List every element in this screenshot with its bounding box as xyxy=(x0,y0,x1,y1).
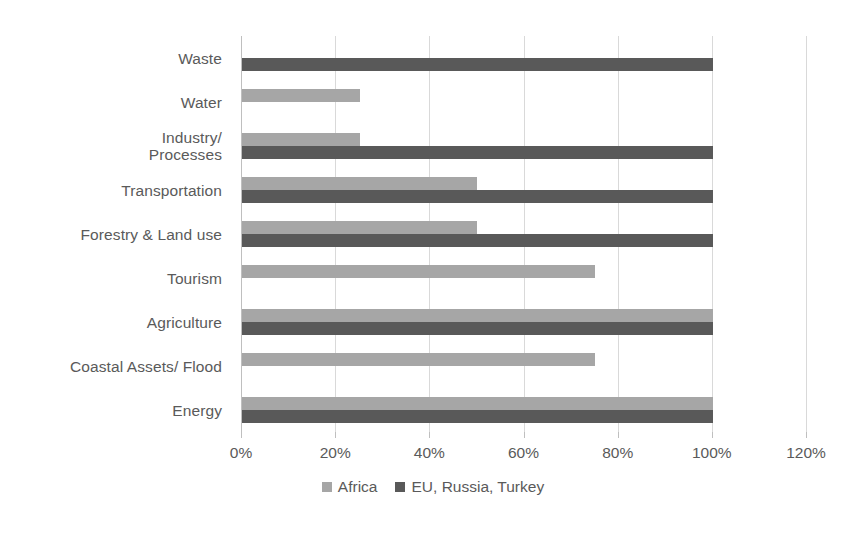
bar xyxy=(242,58,713,71)
x-axis-tick-label: 100% xyxy=(692,444,732,462)
bar xyxy=(242,177,477,190)
axis-tick xyxy=(618,432,619,438)
axis-tick xyxy=(806,432,807,438)
bar xyxy=(242,234,713,247)
bar xyxy=(242,133,360,146)
legend-swatch-icon xyxy=(322,482,332,492)
axis-tick xyxy=(241,432,242,438)
bar xyxy=(242,146,713,159)
category-label: Energy xyxy=(0,402,222,419)
legend-label: Africa xyxy=(338,478,378,496)
legend-label: EU, Russia, Turkey xyxy=(411,478,544,496)
x-axis-tick-label: 80% xyxy=(602,444,633,462)
axis-tick xyxy=(429,432,430,438)
category-label: Waste xyxy=(0,50,222,67)
x-axis-tick-label: 40% xyxy=(414,444,445,462)
bar-chart: WasteWaterIndustry/ ProcessesTransportat… xyxy=(0,0,866,534)
bar xyxy=(242,353,595,366)
category-axis-labels: WasteWaterIndustry/ ProcessesTransportat… xyxy=(0,36,232,432)
category-label: Agriculture xyxy=(0,314,222,331)
bar xyxy=(242,410,713,423)
category-label: Water xyxy=(0,94,222,111)
x-axis-tick-label: 0% xyxy=(230,444,252,462)
bar xyxy=(242,190,713,203)
axis-tick xyxy=(335,432,336,438)
category-label: Industry/ Processes xyxy=(0,129,222,163)
bar xyxy=(242,221,477,234)
plot-area xyxy=(241,36,806,432)
legend-item[interactable]: Africa xyxy=(322,478,378,496)
bar xyxy=(242,309,713,322)
axis-tick xyxy=(712,432,713,438)
category-label: Forestry & Land use xyxy=(0,226,222,243)
bar xyxy=(242,89,360,102)
category-label: Coastal Assets/ Flood xyxy=(0,358,222,375)
x-axis-tick-label: 60% xyxy=(508,444,539,462)
category-label: Transportation xyxy=(0,182,222,199)
x-axis-tick-label: 20% xyxy=(320,444,351,462)
axis-tick xyxy=(524,432,525,438)
x-axis-tick-label: 120% xyxy=(786,444,826,462)
bar xyxy=(242,397,713,410)
gridline xyxy=(806,36,807,432)
chart-legend: AfricaEU, Russia, Turkey xyxy=(0,478,866,496)
legend-item[interactable]: EU, Russia, Turkey xyxy=(395,478,544,496)
category-label: Tourism xyxy=(0,270,222,287)
legend-swatch-icon xyxy=(395,482,405,492)
bar xyxy=(242,265,595,278)
bar xyxy=(242,322,713,335)
